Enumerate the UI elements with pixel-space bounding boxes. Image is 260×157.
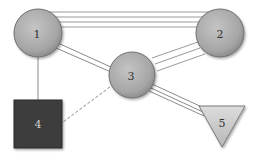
edge-1-2: [38, 12, 218, 27]
node-1-label: 1: [34, 28, 41, 41]
node-2[interactable]: 2: [196, 9, 244, 57]
node-1[interactable]: 1: [14, 9, 62, 57]
edge-3-5: [149, 84, 204, 116]
node-5[interactable]: 5: [199, 106, 245, 147]
edge-1-3: [56, 43, 113, 72]
edge-3-4: [63, 84, 114, 122]
network-diagram: 1 2 3 4 5: [0, 0, 260, 157]
node-3-label: 3: [128, 70, 135, 83]
node-3[interactable]: 3: [109, 52, 155, 98]
edge-2-3: [152, 42, 205, 71]
node-4[interactable]: 4: [14, 100, 62, 148]
node-4-label: 4: [35, 118, 42, 131]
node-2-label: 2: [217, 28, 224, 41]
node-5-label: 5: [219, 117, 226, 130]
